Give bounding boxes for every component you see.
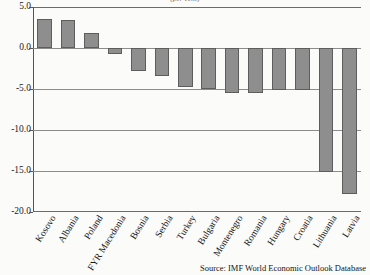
bar [61,20,76,48]
x-axis-tick-label: Lithuania [312,214,339,250]
x-axis-tick-label: Serbia [154,214,175,240]
x-axis-tick-label: Kosovo [34,214,58,244]
bar [272,48,287,90]
x-axis-tick-label: Romania [242,214,268,248]
bar [295,48,310,90]
plot-area [33,7,361,212]
bar [155,48,170,76]
bars-layer [33,7,361,212]
x-axis-tick-label: Poland [83,214,105,241]
bar [131,48,146,71]
bar [201,48,216,89]
bar [37,19,52,48]
chart-title: (per cent) [0,0,370,2]
bar [319,48,334,172]
bar [248,48,263,93]
x-axis-tick-label: Turkey [176,214,198,242]
x-axis-tick-label: Croatia [293,214,316,243]
bar [84,33,99,48]
source-note: Source: IMF World Economic Outlook Datab… [200,263,366,273]
x-axis-tick-label: Hungary [266,214,292,247]
chart-figure: (per cent) 5.00.0-5.0-10.0-15.0-20.0 Kos… [0,0,370,275]
bar [178,48,193,87]
x-axis-tick-label: Latvia [341,214,362,240]
bar [342,48,357,194]
bar [225,48,240,93]
x-axis-tick-labels: KosovoAlbaniaPolandFYR MacedoniaBosniaSe… [33,212,361,258]
y-axis-tick-labels: 5.00.0-5.0-10.0-15.0-20.0 [0,7,31,212]
x-axis-tick-label: Albania [57,214,81,245]
bar [108,48,123,54]
x-axis-tick-label: Bosnia [129,214,151,241]
